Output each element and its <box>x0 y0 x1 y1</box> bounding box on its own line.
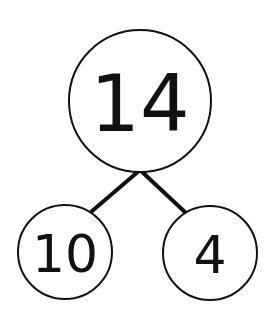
connector-right <box>140 170 186 213</box>
part-circle-right: 4 <box>163 206 257 300</box>
connector-left <box>91 170 140 212</box>
number-bond-diagram: 14 10 4 <box>0 0 272 320</box>
whole-value: 14 <box>90 59 189 149</box>
part-right-value: 4 <box>193 225 226 285</box>
part-left-value: 10 <box>32 224 98 284</box>
part-circle-left: 10 <box>18 205 112 299</box>
whole-circle: 14 <box>69 30 211 172</box>
